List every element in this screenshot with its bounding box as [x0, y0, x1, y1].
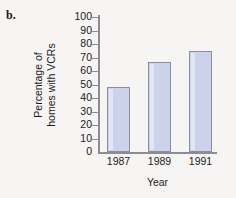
- bar-highlight: [191, 53, 195, 150]
- y-axis-title-line2: homes with VCRs: [45, 43, 58, 126]
- y-tick-label: 50: [66, 79, 92, 90]
- part-label: b.: [6, 8, 16, 23]
- y-tick-label: 60: [66, 65, 92, 76]
- y-tick-label: 20: [66, 119, 92, 130]
- y-axis-title: Percentage of homes with VCRs: [28, 20, 62, 150]
- y-tick-label: 40: [66, 92, 92, 103]
- bar-1987: [107, 87, 130, 152]
- y-tick-label: 90: [66, 25, 92, 36]
- x-tick-label-1989: 1989: [140, 156, 180, 168]
- x-tick-label-1987: 1987: [99, 156, 139, 168]
- y-axis-title-line1: Percentage of: [32, 52, 45, 117]
- figure-container: b. 100 90 80 70 60 50 40 30: [0, 0, 236, 198]
- y-tick-label: 10: [66, 133, 92, 144]
- bar-1991: [189, 51, 212, 152]
- y-tick-label: 30: [66, 106, 92, 117]
- y-axis-line: [98, 15, 100, 154]
- x-axis-line: [98, 152, 217, 154]
- y-tick-label: 0: [66, 146, 92, 157]
- bar-1989: [148, 62, 171, 152]
- bar-highlight: [150, 64, 154, 150]
- y-tick-label: 100: [66, 11, 92, 22]
- y-tick-label: 80: [66, 38, 92, 49]
- y-tick-label: 70: [66, 52, 92, 63]
- bar-highlight: [109, 89, 113, 150]
- x-tick-label-1991: 1991: [181, 156, 221, 168]
- x-axis-title: Year: [98, 176, 217, 188]
